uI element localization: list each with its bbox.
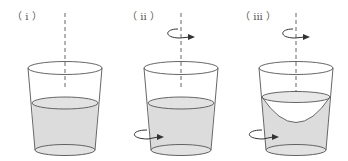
water-surface [32, 97, 98, 109]
water-surface [148, 97, 214, 109]
panel-i: （ i ） [12, 11, 102, 156]
panel-label-iii: （ iii ） [240, 11, 276, 22]
panel-label-ii: （ ii ） [127, 11, 160, 22]
cup-bottom [266, 145, 326, 156]
panel-label-i: （ i ） [12, 11, 42, 22]
rotating-cup-diagram: （ i ） （ ii ） （ iii ） [0, 0, 348, 161]
water-rim [262, 92, 330, 103]
arrowhead-icon [188, 34, 195, 40]
panel-iii: （ iii ） [240, 11, 333, 156]
cup-bottom [151, 145, 211, 156]
panel-ii: （ ii ） [127, 11, 218, 156]
rotation-arrow-top [168, 29, 190, 38]
arrowhead-icon [303, 34, 310, 40]
cup-bottom [35, 145, 95, 156]
rotation-arrow-top [283, 29, 305, 38]
